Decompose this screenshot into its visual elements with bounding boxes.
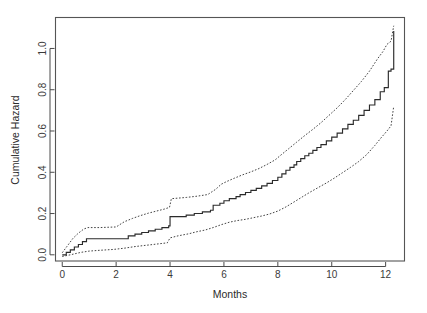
x-tick-label: 10 (326, 269, 338, 280)
y-axis-title: Cumulative Hazard (9, 95, 21, 184)
plot-frame (56, 18, 405, 262)
x-tick-label: 12 (380, 269, 392, 280)
hazard-estimate-curve (62, 31, 393, 255)
x-tick-label: 8 (275, 269, 281, 280)
x-tick-label: 4 (167, 269, 173, 280)
y-tick-label: 1.0 (37, 41, 48, 55)
cumulative-hazard-plot: 0246810120.00.20.40.60.81.0 Months Cumul… (0, 0, 427, 313)
x-axis-title: Months (213, 288, 247, 300)
y-tick-label: 0.6 (37, 124, 48, 138)
x-tick-label: 6 (221, 269, 227, 280)
y-tick-label: 0.0 (37, 247, 48, 261)
y-tick-label: 0.4 (37, 165, 48, 179)
plot-frame-group (56, 18, 405, 262)
confidence-band-curve (62, 26, 393, 253)
data-series-group (62, 26, 393, 257)
x-tick-label: 0 (59, 269, 65, 280)
x-tick-label: 2 (113, 269, 119, 280)
y-tick-label: 0.8 (37, 82, 48, 96)
plot-canvas: 0246810120.00.20.40.60.81.0 Months Cumul… (0, 0, 427, 313)
y-tick-label: 0.2 (37, 206, 48, 220)
axes-group: 0246810120.00.20.40.60.81.0 (37, 41, 391, 280)
